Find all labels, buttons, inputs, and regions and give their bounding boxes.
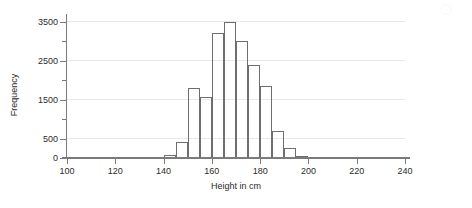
y-axis-tick-label: 500 xyxy=(43,134,58,144)
histogram-bar xyxy=(212,33,224,158)
x-axis-tick xyxy=(405,159,406,164)
y-axis-tick-label: 2500 xyxy=(38,56,58,66)
y-axis-tick xyxy=(60,139,66,140)
y-axis-tick-label: 1500 xyxy=(38,95,58,105)
histogram-bar xyxy=(260,86,272,158)
y-axis-tick xyxy=(60,61,66,62)
x-axis-tick-label: 220 xyxy=(349,166,364,176)
y-axis-line xyxy=(66,14,67,158)
x-axis-tick-label: 240 xyxy=(397,166,412,176)
histogram-bar xyxy=(176,142,188,158)
y-axis-minor-tick xyxy=(62,80,66,81)
x-axis-tick xyxy=(212,159,213,164)
x-axis-tick-label: 180 xyxy=(253,166,268,176)
y-axis-tick-label: 0 xyxy=(53,153,58,163)
x-axis-tick xyxy=(67,159,68,164)
histogram-bar xyxy=(272,131,284,158)
scan-artifact xyxy=(441,4,452,15)
x-axis-line xyxy=(62,157,410,159)
x-axis-tick xyxy=(115,159,116,164)
y-axis-title: Frequency xyxy=(9,40,19,150)
y-axis-tick-label: 3500 xyxy=(38,17,58,27)
x-axis-tick xyxy=(308,159,309,164)
histogram-chart: 0500150025003500 Height in cm Frequency … xyxy=(0,0,472,208)
histogram-bar xyxy=(248,65,260,158)
gridline xyxy=(67,21,405,22)
y-axis-tick xyxy=(60,100,66,101)
y-axis-minor-tick xyxy=(62,41,66,42)
y-axis-minor-tick xyxy=(62,119,66,120)
y-axis-tick xyxy=(60,158,66,159)
histogram-bar xyxy=(188,88,200,158)
x-axis-tick xyxy=(357,159,358,164)
x-axis-tick-label: 200 xyxy=(301,166,316,176)
x-axis-tick-label: 140 xyxy=(156,166,171,176)
x-axis-tick xyxy=(260,159,261,164)
histogram-bar xyxy=(236,41,248,158)
histogram-bar xyxy=(224,22,236,158)
histogram-bar xyxy=(200,97,212,158)
y-axis-tick xyxy=(60,22,66,23)
x-axis-tick-label: 120 xyxy=(108,166,123,176)
x-axis-tick-label: 160 xyxy=(204,166,219,176)
x-axis-title: Height in cm xyxy=(0,181,472,191)
plot-area xyxy=(67,14,405,158)
x-axis-tick xyxy=(164,159,165,164)
x-axis-tick-label: 100 xyxy=(59,166,74,176)
